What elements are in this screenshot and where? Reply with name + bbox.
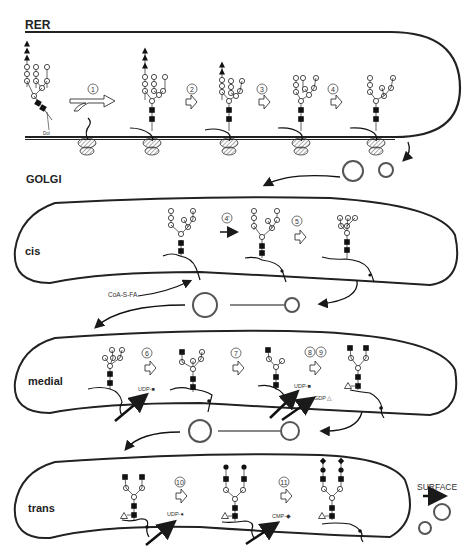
cis-glycan-man5 xyxy=(322,215,374,282)
trans-cisterna: trans 10 UDP-● xyxy=(15,454,410,545)
step-8-9: 8 9 xyxy=(305,347,326,375)
surface-export: SURFACE xyxy=(417,482,457,534)
svg-text:2: 2 xyxy=(190,86,194,93)
svg-text:6: 6 xyxy=(145,350,149,357)
medial-glycan-glcnac2-man3-fuc xyxy=(345,345,385,418)
cis-cisterna: cis 4' xyxy=(15,197,457,298)
step-1: 1 xyxy=(70,84,115,111)
trans-glycan-sialylated xyxy=(319,458,364,542)
rer-compartment: RER Dol 1 xyxy=(24,18,460,185)
step-4: 4 xyxy=(328,84,342,109)
trans-label: trans xyxy=(28,502,55,514)
surface-label: SURFACE xyxy=(417,482,457,492)
cis-label: cis xyxy=(25,245,40,257)
glycan-man8 xyxy=(367,75,395,131)
gdp-fucose-label: GDP △ xyxy=(314,395,332,401)
step-6: 6 xyxy=(142,348,156,375)
svg-text:9: 9 xyxy=(319,349,323,356)
medial-label: medial xyxy=(28,375,63,387)
cis-glycan-man6 xyxy=(245,208,286,282)
step-10: 10 xyxy=(175,477,187,503)
step-3: 3 xyxy=(257,84,270,109)
coa-s-fa-label: CoA-S-FA xyxy=(108,291,138,298)
svg-text:1: 1 xyxy=(91,86,95,93)
cmp-sialic-acid-label: CMP-◆ xyxy=(272,513,291,519)
dolichol-oligosaccharide: Dol xyxy=(24,41,52,137)
svg-text:3: 3 xyxy=(260,86,264,93)
medial-cisterna: medial 6 UDP-■ xyxy=(15,331,456,421)
svg-text:4: 4 xyxy=(331,86,335,93)
medial-to-trans-transport xyxy=(126,412,362,449)
step-11: 11 xyxy=(279,477,292,503)
rer-label: RER xyxy=(25,18,51,32)
step-4-prime: 4' xyxy=(220,213,236,232)
svg-text:7: 7 xyxy=(234,350,238,357)
golgi-label: GOLGI xyxy=(26,173,61,185)
cis-glycan-man8 xyxy=(163,208,200,280)
udp-glcnac-label-2: UDP-■ xyxy=(294,383,311,389)
udp-galactose-label: UDP-● xyxy=(167,511,184,517)
step-2: 2 xyxy=(186,84,197,109)
glycosylation-pathway-diagram: RER Dol 1 xyxy=(0,0,471,556)
step-7: 7 xyxy=(231,348,244,375)
svg-text:5: 5 xyxy=(295,218,299,225)
glycan-man9 xyxy=(293,75,318,131)
svg-text:8: 8 xyxy=(308,349,312,356)
cis-to-medial-transport xyxy=(96,280,357,327)
udp-glcnac-label-1: UDP-■ xyxy=(138,386,155,392)
step-5: 5 xyxy=(292,216,306,244)
glycan-glc2man9 xyxy=(219,62,245,132)
medial-glycan-glcnac-man3 xyxy=(258,347,286,400)
svg-text:4': 4' xyxy=(224,215,229,222)
svg-text:10: 10 xyxy=(176,479,184,486)
dol-label: Dol xyxy=(43,131,50,136)
svg-text:11: 11 xyxy=(280,479,287,486)
glycan-glc3man9 xyxy=(142,48,168,132)
